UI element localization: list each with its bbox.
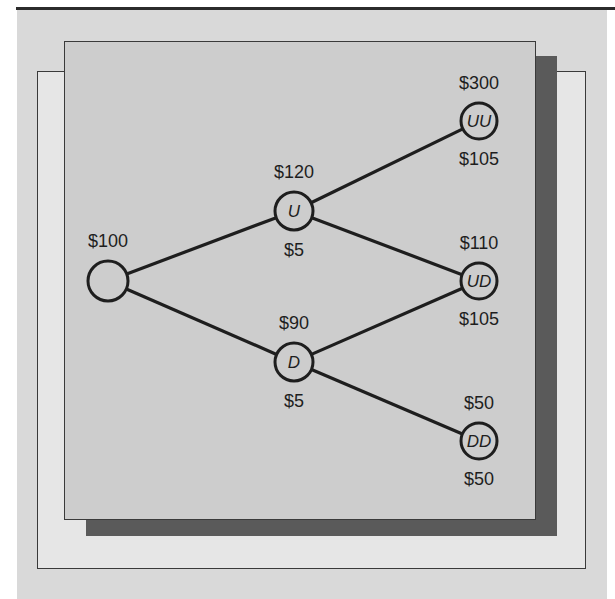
node-circle (88, 261, 128, 301)
node-value-label: $120 (274, 162, 314, 182)
edge-d-dd (311, 369, 462, 433)
node-value-label: $100 (88, 231, 128, 251)
edge-u-uu (311, 129, 463, 203)
binomial-tree-diagram: $100U$120$5D$90$5UU$300$105UD$110$105DD$… (0, 0, 615, 599)
tree-nodes: $100U$120$5D$90$5UU$300$105UD$110$105DD$… (88, 73, 499, 489)
node-d: D$90$5 (275, 313, 313, 411)
edge-root-u (127, 218, 276, 274)
node-label: DD (467, 432, 492, 451)
node-u: U$120$5 (274, 162, 314, 260)
edge-d-ud (311, 288, 462, 354)
node-root: $100 (88, 231, 128, 301)
node-value-label: $90 (279, 313, 309, 333)
node-label: UD (467, 272, 492, 291)
node-dd: DD$50$50 (461, 393, 497, 489)
node-payoff-label: $5 (284, 240, 304, 260)
node-label: UU (467, 112, 492, 131)
node-value-label: $50 (464, 393, 494, 413)
node-label: D (288, 353, 300, 372)
node-label: U (288, 202, 301, 221)
node-uu: UU$300$105 (459, 73, 499, 169)
edge-root-d (126, 289, 276, 354)
node-ud: UD$110$105 (459, 233, 499, 329)
node-payoff-label: $105 (459, 309, 499, 329)
node-payoff-label: $5 (284, 391, 304, 411)
node-payoff-label: $105 (459, 149, 499, 169)
node-value-label: $300 (459, 73, 499, 93)
node-value-label: $110 (460, 233, 499, 253)
node-payoff-label: $50 (464, 469, 494, 489)
edge-u-ud (312, 218, 462, 275)
